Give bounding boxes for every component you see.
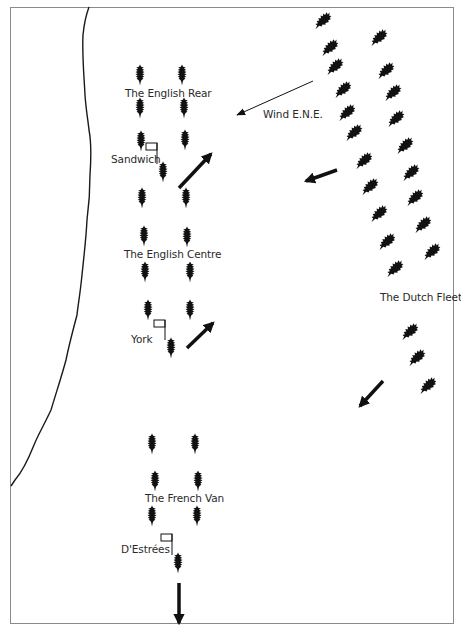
ship-icon <box>180 98 189 119</box>
ship-icon <box>136 98 145 119</box>
ship-icon <box>151 471 160 492</box>
ship-icon <box>182 188 191 209</box>
ship-icon <box>148 434 157 455</box>
dutch-ship-icon <box>318 38 341 57</box>
ships-layer <box>136 11 443 623</box>
ship-icon <box>178 65 187 86</box>
dutch-ship-icon <box>323 57 346 76</box>
ship-icon <box>191 434 200 455</box>
dutch-ship-icon <box>381 83 404 102</box>
label-dutch-fleet: The Dutch Fleet <box>380 291 461 303</box>
flagship-icon <box>167 338 176 359</box>
label-english-rear: The English Rear <box>125 87 212 99</box>
ship-icon <box>194 471 203 492</box>
dutch-ship-icon <box>383 259 406 278</box>
label-destrees: D'Estrées <box>121 543 170 555</box>
ship-icon <box>136 65 145 86</box>
dutch-ship-icon <box>311 11 334 30</box>
movement-arrow-icon <box>306 170 337 181</box>
dutch-ship-icon <box>352 151 375 170</box>
dutch-ship-icon <box>374 61 397 80</box>
ship-icon <box>144 300 153 321</box>
ship-icon <box>193 506 202 527</box>
map-canvas <box>0 0 461 637</box>
ship-icon <box>140 226 149 247</box>
dutch-ship-icon <box>335 103 358 122</box>
movement-arrow-icon <box>187 323 213 348</box>
dutch-ship-icon <box>411 215 434 234</box>
ship-icon <box>137 131 146 152</box>
dutch-ship-icon <box>367 204 390 223</box>
dutch-ship-icon <box>384 109 407 128</box>
battle-map: The English Rear Wind E.N.E. Sandwich Th… <box>0 0 461 637</box>
movement-arrow-icon <box>179 154 211 188</box>
ship-icon <box>183 227 192 248</box>
coastline <box>11 7 91 486</box>
dutch-ship-icon <box>331 80 354 99</box>
ship-icon <box>186 300 195 321</box>
dutch-ship-icon <box>342 123 365 142</box>
dutch-ship-icon <box>398 322 421 341</box>
movement-arrow-icon <box>360 381 383 406</box>
label-french-van: The French Van <box>145 492 224 504</box>
dutch-ship-icon <box>375 232 398 251</box>
ship-icon <box>141 262 150 283</box>
label-york: York <box>131 333 152 345</box>
label-wind: Wind E.N.E. <box>263 108 323 120</box>
ship-icon <box>148 506 157 527</box>
ship-icon <box>186 262 195 283</box>
flag-icon <box>154 320 165 340</box>
dutch-ship-icon <box>416 376 439 395</box>
label-english-centre: The English Centre <box>124 248 221 260</box>
dutch-ship-icon <box>403 188 426 207</box>
dutch-ship-icon <box>399 163 422 182</box>
dutch-ship-icon <box>405 348 428 367</box>
dutch-ship-icon <box>367 28 390 47</box>
flagship-icon <box>174 553 183 574</box>
dutch-ship-icon <box>420 242 443 261</box>
dutch-ship-icon <box>358 177 381 196</box>
ship-icon <box>138 188 147 209</box>
label-sandwich: Sandwich <box>111 153 161 165</box>
ship-icon <box>181 130 190 151</box>
dutch-ship-icon <box>393 136 416 155</box>
